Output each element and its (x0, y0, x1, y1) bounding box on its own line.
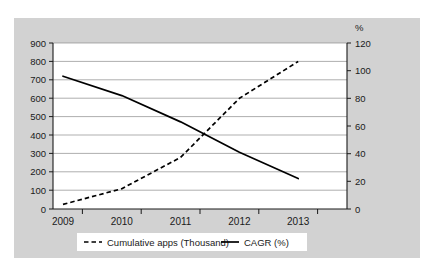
legend-label-cagr: CAGR (%) (244, 237, 289, 248)
y-left-tick-700: 700 (30, 74, 46, 85)
x-tick-label-2011: 2011 (170, 216, 192, 227)
y-left-tick-300: 300 (30, 148, 46, 159)
y-right-tick-0: 0 (355, 204, 360, 215)
y-left-tick-400: 400 (30, 130, 46, 141)
y-right-tick-40: 40 (355, 148, 366, 159)
x-axis: 2009 2010 2011 2012 2013 (52, 209, 347, 227)
legend-label-cumulative-apps: Cumulative apps (Thousand) (107, 237, 229, 248)
y-axis-right: % 120 100 80 60 40 20 0 (347, 22, 371, 215)
plot-area-background (53, 43, 347, 209)
y-right-axis-unit: % (355, 22, 364, 33)
y-left-tick-100: 100 (30, 185, 46, 196)
x-tick-label-2013: 2013 (287, 216, 310, 227)
line-chart: 900 800 700 600 500 400 300 200 100 0 % … (14, 18, 420, 258)
y-right-tick-60: 60 (355, 121, 366, 132)
y-right-tick-20: 20 (355, 176, 366, 187)
y-right-tick-80: 80 (355, 93, 366, 104)
y-left-tick-200: 200 (30, 166, 46, 177)
chart-figure: 900 800 700 600 500 400 300 200 100 0 % … (14, 18, 420, 258)
x-tick-label-2009: 2009 (52, 216, 75, 227)
y-left-tick-900: 900 (30, 38, 46, 49)
y-left-tick-800: 800 (30, 56, 46, 67)
y-right-tick-100: 100 (355, 65, 371, 76)
y-left-tick-500: 500 (30, 111, 46, 122)
y-right-tick-120: 120 (355, 38, 371, 49)
x-tick-label-2010: 2010 (111, 216, 134, 227)
y-left-tick-600: 600 (30, 93, 46, 104)
y-axis-left: 900 800 700 600 500 400 300 200 100 0 (30, 38, 53, 215)
y-left-tick-0: 0 (41, 204, 46, 215)
x-tick-label-2012: 2012 (228, 216, 251, 227)
chart-legend: Cumulative apps (Thousand) CAGR (%) (77, 233, 307, 251)
